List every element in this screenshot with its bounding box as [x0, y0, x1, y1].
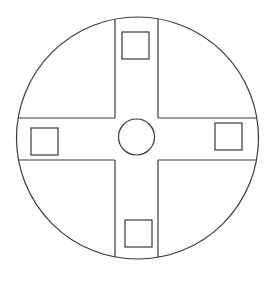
square-bottom: [125, 220, 152, 247]
square-top: [122, 32, 149, 59]
square-markers: [31, 32, 242, 247]
outer-circle: [17, 17, 259, 259]
square-right: [215, 123, 242, 150]
square-left: [31, 128, 58, 155]
cross-circle-diagram: [0, 0, 275, 282]
center-circle: [119, 119, 155, 155]
cross-band-lines: [18, 19, 257, 258]
